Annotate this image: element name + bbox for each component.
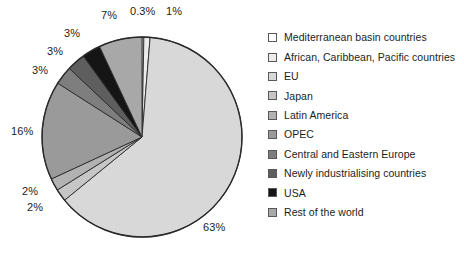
legend-swatch-icon (268, 208, 277, 217)
pie-slice-label: 7% (101, 10, 117, 21)
pie-slice-label: 2% (22, 186, 38, 197)
chart-legend: Mediterranean basin countriesAfrican, Ca… (268, 28, 462, 222)
legend-swatch-icon (268, 150, 277, 159)
legend-item-label: Rest of the world (284, 207, 364, 218)
pie-slice-label: 1% (166, 6, 182, 17)
legend-swatch-icon (268, 130, 277, 139)
pie-slice-group (42, 37, 242, 237)
legend-item[interactable]: OPEC (268, 125, 462, 144)
pie-slice-label: 3% (64, 28, 80, 39)
legend-item-label: EU (284, 71, 299, 82)
legend-item[interactable]: Mediterranean basin countries (268, 28, 462, 47)
legend-item-label: Mediterranean basin countries (284, 32, 427, 43)
pie-svg (0, 0, 260, 255)
legend-swatch-icon (268, 53, 277, 62)
legend-item[interactable]: Central and Eastern Europe (268, 144, 462, 163)
legend-swatch-icon (268, 33, 277, 42)
legend-swatch-icon (268, 72, 277, 81)
pie-chart-figure: 0.3%1%63%2%2%16%3%3%3%7% Mediterranean b… (0, 0, 464, 255)
legend-swatch-icon (268, 169, 277, 178)
legend-item[interactable]: Rest of the world (268, 203, 462, 222)
legend-item[interactable]: African, Caribbean, Pacific countries (268, 47, 462, 66)
pie-slice-label: 3% (32, 65, 48, 76)
legend-item-label: Latin America (284, 110, 348, 121)
legend-item[interactable]: Newly industrialising countries (268, 164, 462, 183)
legend-item[interactable]: Latin America (268, 106, 462, 125)
pie-plot-area: 0.3%1%63%2%2%16%3%3%3%7% (0, 0, 260, 255)
legend-item-label: OPEC (284, 129, 314, 140)
legend-item-label: Japan (284, 91, 313, 102)
pie-slice-label: 3% (47, 46, 63, 57)
legend-item-label: USA (284, 188, 306, 199)
pie-slice-label: 16% (11, 126, 33, 137)
pie-slice-label: 0.3% (130, 6, 155, 17)
legend-item-label: Central and Eastern Europe (284, 149, 415, 160)
legend-item[interactable]: USA (268, 183, 462, 202)
legend-swatch-icon (268, 188, 277, 197)
legend-item[interactable]: EU (268, 67, 462, 86)
pie-slice-label: 63% (203, 222, 225, 233)
pie-slice-label: 2% (27, 202, 43, 213)
legend-swatch-icon (268, 111, 277, 120)
legend-item[interactable]: Japan (268, 86, 462, 105)
legend-item-label: Newly industrialising countries (284, 168, 426, 179)
legend-item-label: African, Caribbean, Pacific countries (284, 52, 455, 63)
legend-swatch-icon (268, 91, 277, 100)
